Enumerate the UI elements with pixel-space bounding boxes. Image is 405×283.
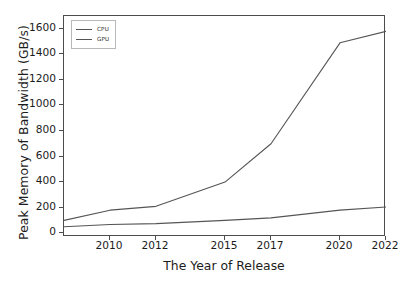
x-tick-label: 2012: [133, 239, 177, 251]
y-tick-label: 600: [0, 149, 56, 161]
legend-label-gpu: GPU: [97, 37, 109, 43]
y-tick-label: 1600: [0, 21, 56, 33]
y-tick-label: 800: [0, 123, 56, 135]
x-tick-label: 2017: [248, 239, 292, 251]
chart-figure: Peak Memory of Bandwidth (GB/s) The Year…: [0, 0, 405, 283]
y-tick-label: 1200: [0, 72, 56, 84]
x-tick-label: 2015: [202, 239, 246, 251]
legend: CPU GPU: [71, 20, 116, 49]
y-tick-label: 1400: [0, 46, 56, 58]
x-tick-label: 2022: [363, 239, 405, 251]
x-tick-label: 2020: [317, 239, 361, 251]
legend-line-swatch-gpu: [76, 39, 92, 40]
legend-label-cpu: CPU: [97, 27, 109, 33]
legend-item-cpu[interactable]: CPU: [76, 25, 109, 34]
y-tick-label: 0: [0, 225, 56, 237]
series-line-cpu: [64, 31, 386, 220]
series-lines: [64, 16, 386, 237]
y-tick-label: 1000: [0, 97, 56, 109]
legend-item-gpu[interactable]: GPU: [76, 35, 109, 44]
x-tick-label: 2010: [87, 239, 131, 251]
x-axis-label: The Year of Release: [63, 258, 385, 273]
legend-line-swatch-cpu: [76, 29, 92, 30]
y-tick-label: 400: [0, 174, 56, 186]
y-tick-label: 200: [0, 200, 56, 212]
